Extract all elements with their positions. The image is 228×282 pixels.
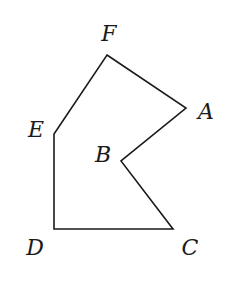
- vertex-label-E: E: [28, 119, 44, 141]
- vertex-label-D: D: [26, 237, 44, 259]
- polygon-FABCDE: [54, 55, 186, 229]
- diagram-canvas: F A B C D E: [0, 0, 228, 282]
- vertex-label-C: C: [182, 237, 199, 259]
- vertex-label-B: B: [95, 144, 111, 166]
- vertex-label-F: F: [101, 23, 116, 45]
- vertex-label-A: A: [198, 101, 214, 123]
